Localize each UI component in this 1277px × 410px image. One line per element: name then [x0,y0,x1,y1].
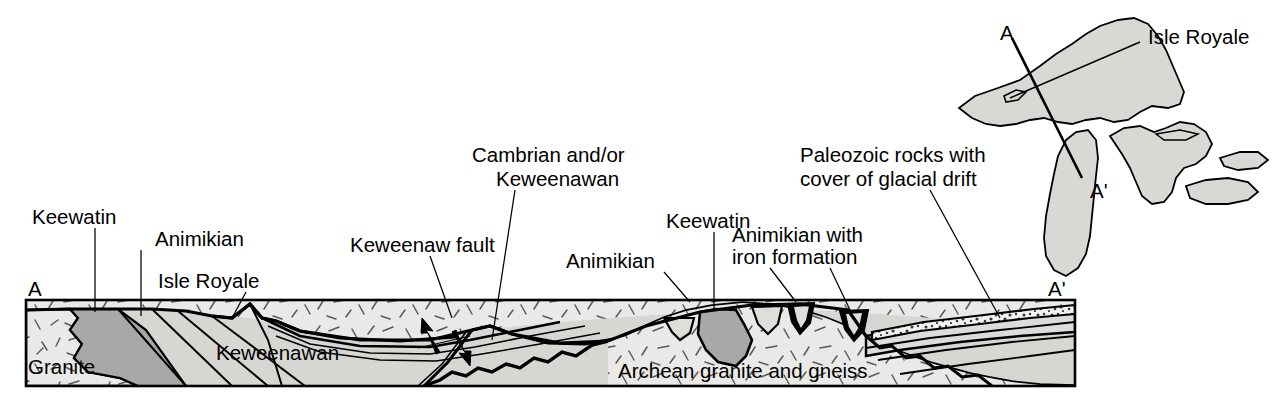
label-animikian-iron-line1: Animikian with [732,223,863,246]
label-keweenawan-inblock: Keweenawan [216,341,339,364]
figure-canvas: Keewatin Animikian Isle Royale Keweenaw … [0,0,1277,410]
label-isle-royale: Isle Royale [158,269,259,292]
label-keewatin-left: Keewatin [32,205,116,228]
label-archean-inblock: Archean granite and gneiss [618,359,868,382]
label-animikian-left: Animikian [155,227,244,250]
label-granite-inblock: Granite [28,355,95,378]
map-label-isle-royale: Isle Royale [1148,25,1249,48]
map-label-a-prime-lower: A' [1048,277,1066,300]
label-cambrian-keweenawan-line1: Cambrian and/or [472,143,625,166]
cross-section-block [26,300,1075,386]
label-paleozoic-line1: Paleozoic rocks with [800,143,986,166]
lake-erie-shape [1186,178,1258,204]
label-animikian-mid: Animikian [566,249,655,272]
label-cambrian-keweenawan-line2: Keweenawan [496,167,619,190]
label-paleozoic-line2: cover of glacial drift [800,167,977,190]
map-label-a-prime: A' [1090,179,1108,202]
map-label-a: A [1000,21,1014,44]
label-endpoint-a: A [28,277,42,300]
label-keweenaw-fault: Keweenaw fault [350,233,495,256]
geologic-cross-section-figure: Keewatin Animikian Isle Royale Keweenaw … [0,0,1277,410]
label-animikian-iron-line2: iron formation [732,245,857,268]
